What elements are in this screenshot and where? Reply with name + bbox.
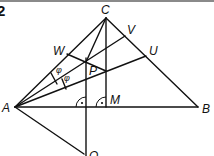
- label-m: M: [110, 93, 120, 107]
- geometry-diagram: C A B M P W V U Q φ φ: [0, 0, 214, 156]
- label-phi-1: φ: [56, 65, 62, 75]
- right-angle-dot-2: [101, 102, 103, 104]
- label-phi-2: φ: [64, 73, 70, 83]
- label-q: Q: [89, 149, 98, 156]
- label-c: C: [101, 3, 110, 17]
- line-aq: [15, 107, 84, 154]
- right-angle-marker-2: [96, 97, 106, 107]
- line-av: [15, 36, 125, 107]
- line-au: [15, 56, 146, 107]
- label-p: P: [89, 64, 97, 78]
- label-a: A: [1, 101, 10, 115]
- right-angle-marker-1: [76, 97, 86, 107]
- right-angle-dot-1: [81, 102, 83, 104]
- label-w: W: [53, 44, 66, 58]
- label-u: U: [149, 44, 158, 58]
- label-v: V: [127, 23, 136, 37]
- side-ac: [15, 18, 106, 107]
- label-b: B: [202, 102, 210, 116]
